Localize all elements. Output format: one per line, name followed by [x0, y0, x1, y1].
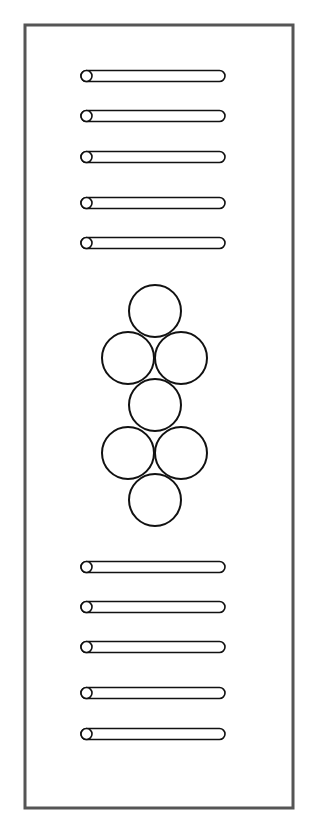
rod-end-cap [81, 562, 92, 573]
rod [81, 642, 225, 653]
rod [81, 71, 225, 82]
rod-end-cap [81, 111, 92, 122]
rod-body [81, 111, 225, 122]
rod-body [81, 562, 225, 573]
rod-cross-section-circle [155, 332, 207, 384]
rod-body [81, 238, 225, 249]
rod [81, 152, 225, 163]
rod-end-cap [81, 152, 92, 163]
rod [81, 688, 225, 699]
rod-body [81, 152, 225, 163]
rod-end-cap [81, 642, 92, 653]
top-rod-group [81, 71, 225, 249]
rod-body [81, 198, 225, 209]
rod-end-cap [81, 729, 92, 740]
rod [81, 238, 225, 249]
rod-cross-section-circle [129, 474, 181, 526]
rod-cross-section-circle [155, 427, 207, 479]
rod-end-cap [81, 198, 92, 209]
rod [81, 111, 225, 122]
rod [81, 562, 225, 573]
rod-cross-section-circle [102, 427, 154, 479]
rod-cross-section-cluster [102, 285, 207, 526]
rod [81, 198, 225, 209]
rod-body [81, 71, 225, 82]
rod-cross-section-circle [129, 285, 181, 337]
rod-arrangement-diagram [0, 0, 314, 830]
rod-body [81, 688, 225, 699]
rod-end-cap [81, 688, 92, 699]
rod [81, 602, 225, 613]
rod [81, 729, 225, 740]
rod-cross-section-circle [102, 332, 154, 384]
rod-cross-section-circle [129, 379, 181, 431]
rod-end-cap [81, 602, 92, 613]
rod-body [81, 602, 225, 613]
rod-body [81, 729, 225, 740]
rod-end-cap [81, 238, 92, 249]
bottom-rod-group [81, 562, 225, 740]
rod-body [81, 642, 225, 653]
rod-end-cap [81, 71, 92, 82]
